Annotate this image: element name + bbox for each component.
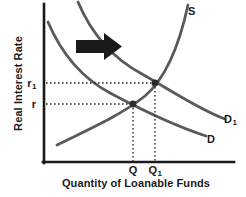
y-tick-r1-base: r (27, 77, 31, 89)
loanable-funds-chart: Real Interest Rate Quantity of Loanable … (0, 0, 246, 197)
supply-curve-s (57, 5, 188, 145)
x-tick-q1-base: Q (148, 164, 157, 176)
x-tick-label-q: Q (124, 165, 142, 176)
demand-curve-d (48, 22, 206, 136)
demand-curve-d1 (78, 2, 225, 119)
curve-d1-subscript: 1 (232, 118, 236, 127)
y-tick-label-r: r (18, 99, 36, 110)
curve-d1-base: D (224, 113, 232, 125)
x-tick-q1-subscript: 1 (158, 169, 162, 178)
curve-label-supply: S (188, 6, 195, 17)
curve-label-demand: D (207, 134, 215, 145)
y-tick-r1-subscript: 1 (32, 82, 36, 91)
curve-label-demand-shifted: D1 (224, 114, 236, 125)
chart-plot-area (0, 0, 246, 197)
x-tick-label-q1: Q1 (146, 165, 164, 176)
x-axis-title: Quantity of Loanable Funds (43, 178, 229, 189)
y-tick-label-r1: r1 (18, 78, 36, 89)
equilibrium-point-initial (130, 101, 137, 108)
equilibrium-point-new (152, 80, 159, 87)
